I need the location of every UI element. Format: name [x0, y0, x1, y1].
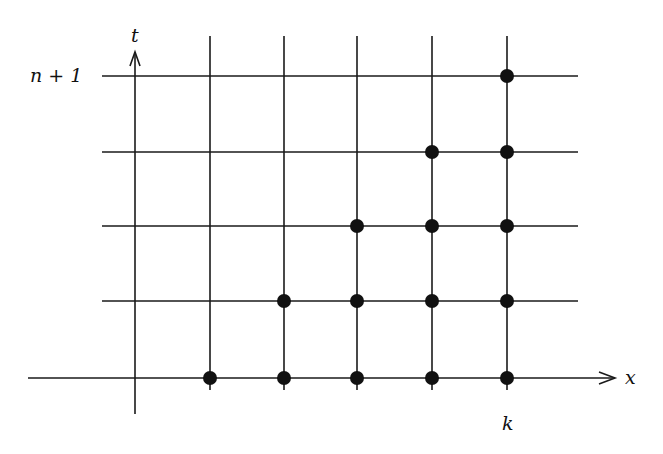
t-axis-label: t: [131, 26, 139, 45]
grid-point-dot: [425, 145, 439, 159]
grid-point-dot: [500, 145, 514, 159]
grid-point-dot: [277, 371, 291, 385]
grid-point-dot: [500, 69, 514, 83]
grid-point-dot: [425, 219, 439, 233]
grid-points: [203, 69, 514, 385]
grid-point-dot: [350, 371, 364, 385]
grid-point-dot: [203, 371, 217, 385]
grid-point-dot: [350, 294, 364, 308]
x-axis-label: x: [625, 368, 636, 387]
grid-point-dot: [500, 371, 514, 385]
grid-point-dot: [500, 294, 514, 308]
grid-point-dot: [425, 294, 439, 308]
grid-point-dot: [425, 371, 439, 385]
level-n-plus-1-label: n + 1: [30, 66, 82, 85]
stencil-grid-diagram: [0, 0, 663, 454]
grid-lines: [102, 36, 578, 390]
grid-point-dot: [277, 294, 291, 308]
axes: [28, 52, 615, 414]
grid-point-dot: [500, 219, 514, 233]
column-k-label: k: [502, 414, 514, 433]
grid-point-dot: [350, 219, 364, 233]
